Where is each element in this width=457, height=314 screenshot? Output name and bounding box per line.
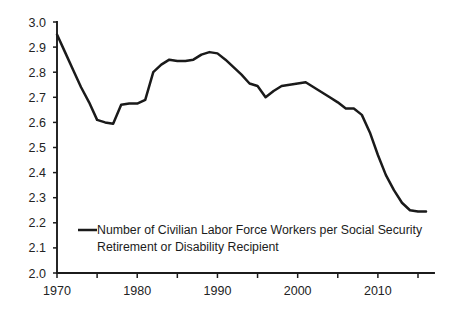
y-axis-tick-label: 2.2	[29, 216, 46, 230]
y-axis-tick-label: 2.0	[29, 267, 46, 281]
y-axis-tick-label: 2.4	[29, 166, 46, 180]
legend-label-line-2: Retirement or Disability Recipient	[97, 240, 279, 254]
legend-label-line-1: Number of Civilian Labor Force Workers p…	[97, 223, 423, 237]
x-axis-tick-labels: 19701980199020002010	[43, 284, 392, 298]
y-axis-tick-label: 2.7	[29, 91, 46, 105]
x-axis-tick-label: 1990	[204, 284, 232, 298]
y-axis-tick-label: 2.8	[29, 66, 46, 80]
y-axis-tick-label: 2.3	[29, 191, 46, 205]
y-axis-tick-label: 2.5	[29, 141, 46, 155]
y-axis-tick-label: 2.9	[29, 41, 46, 55]
x-axis-tick-label: 1970	[43, 284, 71, 298]
x-axis-tick-label: 2010	[364, 284, 392, 298]
x-axis-tick-label: 1980	[123, 284, 151, 298]
y-axis-tick-label: 3.0	[29, 16, 46, 30]
data-series-line	[57, 35, 426, 212]
y-axis-tick-label: 2.6	[29, 116, 46, 130]
chart-container: 3.02.92.82.72.62.52.42.32.22.12.0 197019…	[0, 0, 457, 314]
y-axis-tick-label: 2.1	[29, 241, 46, 255]
y-axis-tick-labels: 3.02.92.82.72.62.52.42.32.22.12.0	[29, 16, 46, 281]
line-chart-plot: 3.02.92.82.72.62.52.42.32.22.12.0 197019…	[0, 0, 457, 314]
x-axis-tick-label: 2000	[284, 284, 312, 298]
